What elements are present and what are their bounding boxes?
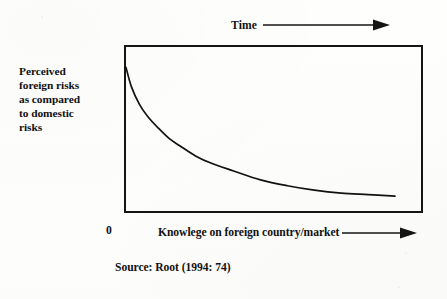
y-axis-label-line: foreign risks xyxy=(19,78,123,92)
decay-curve-path xyxy=(126,67,395,196)
y-axis-label: Perceived foreign risks as compared to d… xyxy=(19,64,123,134)
time-annotation: Time xyxy=(231,16,391,34)
time-label: Time xyxy=(231,19,257,32)
source-caption: Source: Root (1994: 74) xyxy=(115,261,231,274)
figure-root: Perceived foreign risks as compared to d… xyxy=(0,0,447,299)
time-arrow-icon xyxy=(263,19,391,31)
scan-speck xyxy=(405,252,407,254)
y-axis-label-line: risks xyxy=(19,120,123,134)
x-axis-label: Knowlege on foreign country/market xyxy=(158,226,339,239)
risk-decay-curve xyxy=(124,45,423,213)
x-axis-annotation: Knowlege on foreign country/market xyxy=(158,224,418,241)
x-origin-label: 0 xyxy=(106,224,112,237)
scan-speck xyxy=(398,286,400,288)
y-axis-label-line: Perceived xyxy=(19,64,123,78)
x-axis-arrow-icon xyxy=(342,227,418,239)
y-axis-label-line: as compared xyxy=(19,92,123,106)
scan-speck xyxy=(41,16,43,18)
y-axis-label-line: to domestic xyxy=(19,106,123,120)
